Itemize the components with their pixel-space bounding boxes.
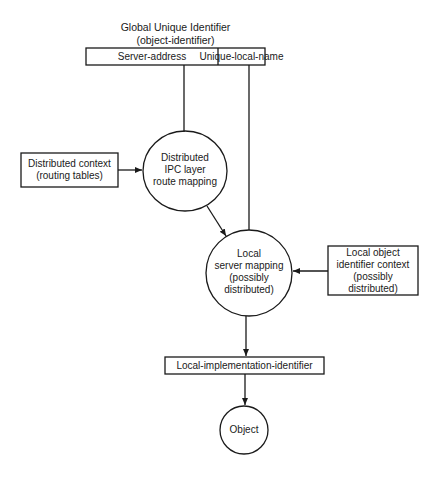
local-impl-id-label: Local-implementation-identifier xyxy=(165,360,324,372)
ipc-line-1: Distributed xyxy=(143,152,227,164)
local-object-context-label: Local object identifier context (possibl… xyxy=(328,247,418,295)
loc-line-2: identifier context xyxy=(328,259,418,271)
routing-context-line-1: Distributed context xyxy=(21,158,118,170)
routing-context-line-2: (routing tables) xyxy=(21,170,118,182)
diagram-title: Global Unique Identifier (object-identif… xyxy=(86,21,265,47)
routing-context-label: Distributed context (routing tables) xyxy=(21,158,118,182)
unique-local-name-text: Unique-local-name xyxy=(198,51,285,63)
lsm-line-2: server mapping xyxy=(206,260,292,272)
local-server-mapping-label: Local server mapping (possibly distribut… xyxy=(206,248,292,296)
lsm-line-1: Local xyxy=(206,248,292,260)
ipc-line-2: IPC layer xyxy=(143,164,227,176)
object-label: Object xyxy=(220,424,268,436)
edge-ipc-to-local xyxy=(207,206,226,236)
ipc-mapping-label: Distributed IPC layer route mapping xyxy=(143,152,227,188)
lsm-line-3: (possibly xyxy=(206,272,292,284)
title-line-2: (object-identifier) xyxy=(86,34,265,47)
loc-line-4: distributed) xyxy=(328,283,418,295)
title-line-1: Global Unique Identifier xyxy=(86,21,265,34)
loc-line-1: Local object xyxy=(328,247,418,259)
ipc-line-3: route mapping xyxy=(143,176,227,188)
lsm-line-4: distributed) xyxy=(206,284,292,296)
diagram-canvas xyxy=(0,0,428,478)
loc-line-3: (possibly xyxy=(328,271,418,283)
